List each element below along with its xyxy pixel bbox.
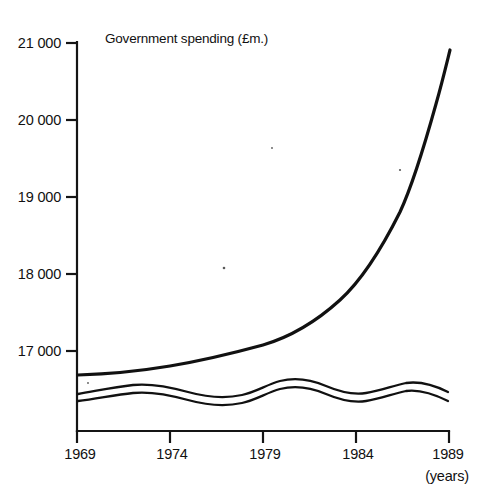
scan-speck-icon <box>223 267 226 270</box>
y-axis-label-19000: 19 000 <box>18 189 61 205</box>
line-chart-svg: Government spending (£m.) 21 000 20 000 … <box>0 0 482 493</box>
y-axis-label-18000: 18 000 <box>18 266 61 282</box>
series-rising-curve <box>78 50 450 375</box>
scan-speck-icon <box>399 169 401 171</box>
x-axis-label-1974: 1974 <box>156 446 188 462</box>
x-axis-label-1984: 1984 <box>342 446 374 462</box>
x-axis-label-1979: 1979 <box>249 446 281 462</box>
x-axis-label-1989: 1989 <box>432 446 464 462</box>
y-axis-label-20000: 20 000 <box>18 112 61 128</box>
x-axis-units-label: (years) <box>425 468 469 484</box>
y-axis-label-21000: 21 000 <box>18 35 61 51</box>
y-axis-label-17000: 17 000 <box>18 343 61 359</box>
series-band-lower <box>78 387 448 405</box>
chart-figure: Government spending (£m.) 21 000 20 000 … <box>0 0 482 493</box>
scan-speck-icon <box>87 382 89 384</box>
x-axis-label-1969: 1969 <box>64 446 96 462</box>
scan-speck-icon <box>271 147 273 149</box>
chart-title: Government spending (£m.) <box>105 31 268 46</box>
